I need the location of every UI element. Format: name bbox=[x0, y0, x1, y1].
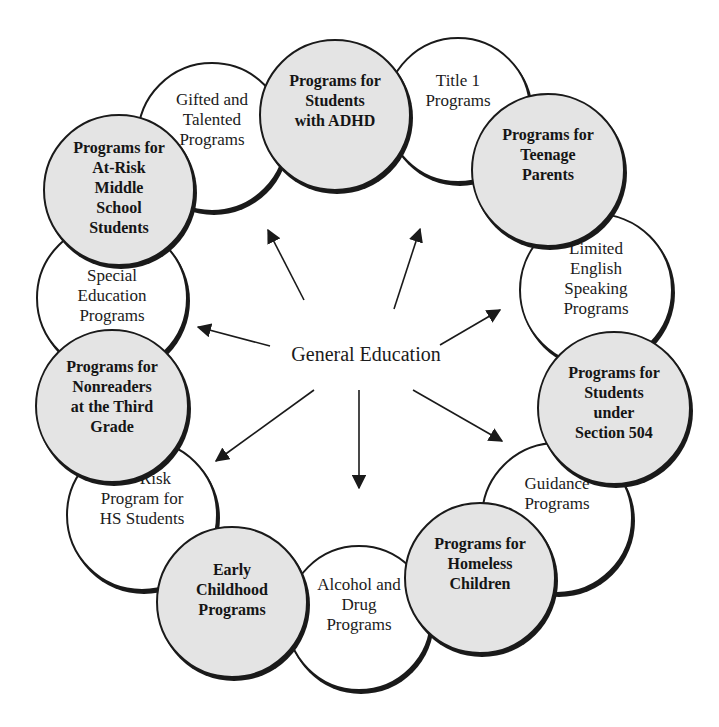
arrow-4 bbox=[216, 390, 314, 461]
program-node-label: Special Education Programs bbox=[78, 266, 147, 326]
program-node-label: Early Childhood Programs bbox=[196, 560, 268, 620]
program-node-label: Gifted and Talented Programs bbox=[176, 90, 248, 150]
program-node-label: Programs for Students with ADHD bbox=[289, 71, 381, 131]
program-node-label: Programs for At-Risk Middle School Stude… bbox=[73, 138, 165, 238]
program-node-at-risk-middle: Programs for At-Risk Middle School Stude… bbox=[43, 114, 195, 266]
center-label-general-education: General Education bbox=[286, 343, 446, 366]
arrow-3 bbox=[198, 327, 270, 346]
program-node-nonreaders: Programs for Nonreaders at the Third Gra… bbox=[35, 329, 189, 483]
program-node-homeless: Programs for Homeless Children bbox=[404, 502, 556, 654]
program-node-label: Programs for Nonreaders at the Third Gra… bbox=[66, 357, 158, 437]
program-node-label: Limited English Speaking Programs bbox=[563, 239, 628, 319]
diagram-canvas: Gifted and Talented ProgramsTitle 1 Prog… bbox=[0, 0, 719, 727]
program-node-adhd: Programs for Students with ADHD bbox=[259, 39, 411, 191]
program-node-teenage-parents: Programs for Teenage Parents bbox=[471, 93, 625, 247]
program-node-label: Programs for Teenage Parents bbox=[502, 125, 594, 185]
program-node-early-childhood: Early Childhood Programs bbox=[156, 526, 308, 678]
program-node-label: Alcohol and Drug Programs bbox=[317, 575, 401, 635]
arrow-2 bbox=[440, 310, 500, 345]
arrow-6 bbox=[413, 390, 502, 441]
program-node-label: Guidance Programs bbox=[524, 474, 589, 514]
program-node-section-504: Programs for Students under Section 504 bbox=[537, 331, 691, 485]
arrow-0 bbox=[268, 230, 304, 300]
program-node-label: Programs for Students under Section 504 bbox=[568, 363, 660, 443]
arrow-1 bbox=[394, 229, 420, 309]
program-node-label: Programs for Homeless Children bbox=[434, 534, 526, 594]
program-node-label: Title 1 Programs bbox=[425, 71, 490, 111]
